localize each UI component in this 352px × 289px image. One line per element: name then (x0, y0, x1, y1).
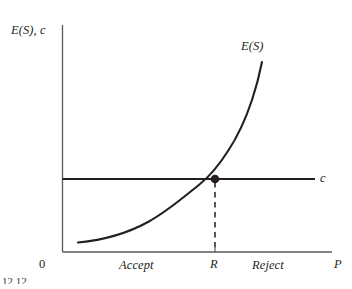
chart-canvas (0, 0, 352, 289)
y-axis-label: E(S), c (11, 24, 46, 37)
threshold-label-r: R (210, 258, 218, 271)
accept-region-label: Accept (119, 259, 154, 272)
origin-label: 0 (39, 258, 45, 271)
reject-region-label: Reject (252, 259, 284, 272)
cost-line-label-c: c (320, 172, 326, 185)
curve-label-es: E(S) (241, 40, 264, 53)
expected-sanction-curve (78, 62, 262, 243)
figure-container: E(S), c E(S) c 0 Accept R Reject P 12.12 (0, 0, 352, 289)
equilibrium-point-dot (211, 175, 220, 184)
figure-caption-partial: 12.12 (2, 276, 27, 284)
x-axis-label: P (334, 258, 342, 271)
